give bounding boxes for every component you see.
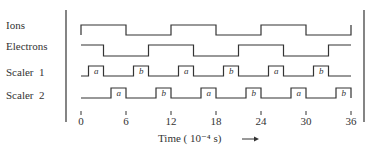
- pulse-label: b: [342, 88, 347, 98]
- pulse-label: a: [117, 88, 122, 98]
- tick-label: 24: [256, 115, 268, 127]
- pulse-label: a: [184, 66, 189, 76]
- arrow-right-icon: [242, 137, 259, 142]
- tick-label: 36: [346, 115, 358, 127]
- tick-label: 12: [166, 115, 177, 127]
- waveform-electrons: [81, 45, 351, 56]
- waveform-scaler-1: [81, 66, 351, 76]
- pulse-label: b: [319, 66, 324, 76]
- pulse-label: a: [297, 88, 302, 98]
- pulse-label: a: [94, 66, 99, 76]
- pulse-label: b: [229, 66, 234, 76]
- row-label-electrons: Electrons: [6, 40, 48, 52]
- waveforms: [81, 25, 351, 98]
- pulse-label: b: [162, 88, 167, 98]
- waveform-scaler-2: [81, 88, 351, 98]
- x-axis-label: Time ( 10⁻⁴ s): [158, 132, 222, 145]
- row-label-scaler-2: Scaler 2: [6, 89, 44, 101]
- tick-label: 6: [123, 115, 129, 127]
- pulse-labels: abababababab: [94, 66, 347, 98]
- pulse-label: b: [139, 66, 144, 76]
- waveform-ions: [81, 25, 351, 35]
- timing-diagram: Ions Electrons Scaler 1 Scaler 2 abababa…: [0, 0, 375, 151]
- pulse-label: a: [274, 66, 279, 76]
- row-label-scaler-1: Scaler 1: [6, 66, 44, 78]
- row-label-ions: Ions: [6, 19, 25, 31]
- pulse-label: a: [207, 88, 212, 98]
- tick-label: 0: [78, 115, 84, 127]
- tick-label: 30: [301, 115, 313, 127]
- x-axis-ticks: 061218243036: [78, 111, 357, 127]
- pulse-label: b: [252, 88, 257, 98]
- tick-label: 18: [211, 115, 223, 127]
